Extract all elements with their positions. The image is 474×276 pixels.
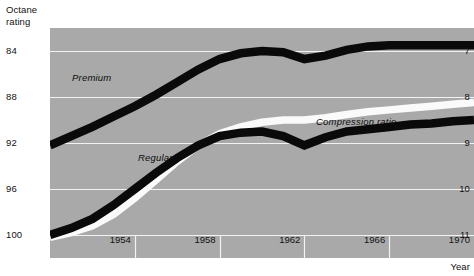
x-tick-label: 1954: [107, 234, 131, 245]
y-axis-title: Octane rating: [6, 4, 37, 27]
series-label-premium: Premium: [72, 72, 111, 83]
chart-figure: Octane rating Premium Regular Compressio…: [0, 0, 474, 276]
x-tick-label: 1970: [446, 234, 470, 245]
x-axis-title: Year: [450, 261, 470, 273]
y-tick-left: 84: [6, 46, 17, 56]
series-layer: [50, 45, 474, 237]
x-tick-marks: [136, 236, 390, 258]
y-tick-right: 9: [465, 138, 470, 148]
y-tick-right: 10: [459, 184, 470, 194]
x-tick-label: 1958: [192, 234, 216, 245]
x-tick-label: 1966: [361, 234, 385, 245]
plot-svg: [50, 28, 474, 258]
x-tick-label: 1962: [276, 234, 300, 245]
y-tick-left: 100: [6, 230, 22, 240]
y-tick-left: 92: [6, 138, 17, 148]
y-tick-right: 8: [465, 92, 470, 102]
plot-area: Premium Regular Compression ratio: [50, 28, 474, 258]
y-tick-right: 7: [465, 46, 470, 56]
y-tick-left: 88: [6, 92, 17, 102]
series-label-compression: Compression ratio: [316, 116, 397, 127]
y-tick-left: 96: [6, 184, 17, 194]
series-label-regular: Regular: [138, 152, 173, 163]
